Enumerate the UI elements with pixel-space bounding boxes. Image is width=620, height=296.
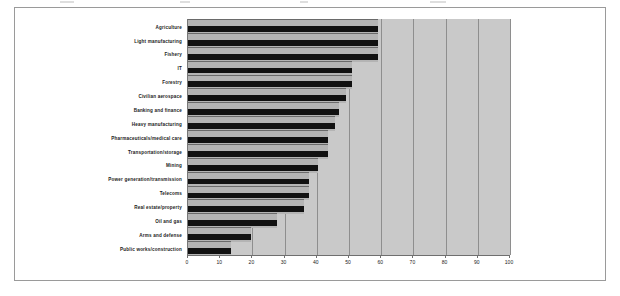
x-tick-40: [316, 255, 317, 258]
x-tick-label: 40: [313, 260, 319, 265]
figure-frame: AgricultureLight manufacturingFisheryITF…: [14, 7, 606, 281]
bar-row: [188, 172, 510, 186]
bar-transportation-storage: [188, 151, 328, 157]
y-axis-label: Light manufacturing: [134, 40, 182, 45]
y-axis-label: Agriculture: [156, 26, 182, 31]
bar-row: [188, 186, 510, 200]
scan-speck: [430, 1, 446, 3]
bar-row: [188, 158, 510, 172]
y-axis-label: Heavy manufacturing: [132, 123, 182, 128]
y-axis-label: Banking and finance: [134, 109, 182, 114]
bar-row: [188, 144, 510, 158]
y-axis-label: IT: [178, 67, 182, 72]
x-tick-label: 100: [505, 260, 513, 265]
y-axis-label: Oil and gas: [155, 220, 182, 225]
scan-speck: [60, 1, 74, 3]
scan-artifact: [0, 1, 620, 4]
x-tick-90: [477, 255, 478, 258]
bar-light-manufacturing: [188, 40, 378, 46]
y-axis-label: Public works/construction: [120, 248, 182, 253]
bar-row: [188, 19, 510, 33]
bar-forestry: [188, 81, 352, 87]
bar-row: [188, 199, 510, 213]
bar-banking-and-finance: [188, 109, 339, 115]
bar-agriculture: [188, 26, 378, 32]
bars-layer: [188, 19, 510, 255]
bar-row: [188, 47, 510, 61]
y-axis-label: Transportation/storage: [128, 151, 182, 156]
x-tick-label: 30: [281, 260, 287, 265]
scan-speck: [300, 1, 308, 3]
bar-row: [188, 75, 510, 89]
x-tick-label: 0: [186, 260, 189, 265]
bar-civilian-aerospace: [188, 95, 346, 101]
x-tick-100: [509, 255, 510, 258]
x-tick-50: [348, 255, 349, 258]
bar-real-estate-property: [188, 206, 304, 212]
x-tick-30: [284, 255, 285, 258]
bar-row: [188, 227, 510, 241]
y-axis-label: Civilian aerospace: [138, 95, 182, 100]
y-axis-label: Pharmaceuticals/medical care: [111, 137, 182, 142]
x-tick-0: [187, 255, 188, 258]
bar-fishery: [188, 54, 378, 60]
bar-row: [188, 130, 510, 144]
bar-pharmaceuticals-medical-care: [188, 137, 328, 143]
y-axis-label: Real estate/property: [134, 206, 182, 211]
x-tick-label: 50: [345, 260, 351, 265]
bar-it: [188, 68, 352, 74]
x-tick-label: 80: [442, 260, 448, 265]
x-tick-70: [412, 255, 413, 258]
bar-chart: AgricultureLight manufacturingFisheryITF…: [15, 8, 607, 282]
bar-heavy-manufacturing: [188, 123, 335, 129]
y-axis-label: Forestry: [162, 81, 182, 86]
x-tick-label: 70: [410, 260, 416, 265]
bar-row: [188, 102, 510, 116]
bar-row: [188, 241, 510, 255]
bar-arms-and-defense: [188, 234, 251, 240]
bar-row: [188, 61, 510, 75]
bar-row: [188, 88, 510, 102]
x-tick-60: [380, 255, 381, 258]
y-axis-label: Telecoms: [160, 192, 182, 197]
plot-region: [187, 19, 510, 255]
y-axis-category-labels: AgricultureLight manufacturingFisheryITF…: [15, 19, 185, 255]
x-tick-label: 10: [216, 260, 222, 265]
bar-mining: [188, 165, 318, 171]
x-tick-label: 90: [474, 260, 480, 265]
x-tick-label: 20: [249, 260, 255, 265]
y-axis-label: Arms and defense: [139, 234, 182, 239]
x-tick-20: [251, 255, 252, 258]
x-tick-10: [219, 255, 220, 258]
bar-public-works-construction: [188, 248, 231, 254]
bar-row: [188, 213, 510, 227]
gridline-100: [510, 19, 511, 255]
bar-row: [188, 116, 510, 130]
x-tick-label: 60: [377, 260, 383, 265]
bar-power-generation-transmission: [188, 179, 309, 185]
scan-speck: [180, 1, 190, 3]
y-axis-label: Power generation/transmission: [108, 178, 182, 183]
x-tick-80: [445, 255, 446, 258]
bar-telecoms: [188, 193, 309, 199]
y-axis-label: Mining: [166, 164, 182, 169]
y-axis-label: Fishery: [164, 53, 182, 58]
bar-row: [188, 33, 510, 47]
bar-oil-and-gas: [188, 220, 277, 226]
